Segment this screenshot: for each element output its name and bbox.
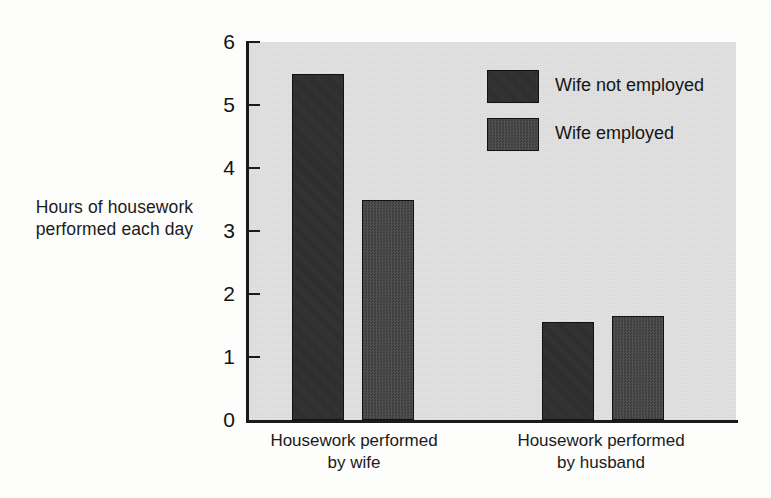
y-axis-tick-label-6: 6 (201, 31, 235, 52)
y-axis-tick-label-5: 5 (201, 94, 235, 115)
legend-swatch-icon-0 (487, 70, 539, 103)
bar-group-0-series-0 (292, 74, 344, 421)
x-axis-line (246, 420, 738, 423)
bar-group-1-series-0 (542, 322, 594, 420)
bar-chart: Hours of housework performed each day 01… (0, 0, 771, 498)
x-axis-category-label-0: Housework performed by wife (239, 430, 469, 474)
y-axis-tick-1 (249, 356, 260, 358)
bar-group-1-series-1 (612, 316, 664, 420)
y-axis-tick-label-4: 4 (201, 157, 235, 178)
y-axis-tick-3 (249, 230, 260, 232)
y-axis-tick-label-2: 2 (201, 283, 235, 304)
legend-item-0[interactable]: Wife not employed (487, 66, 747, 114)
y-axis-tick-5 (249, 104, 260, 106)
y-axis-tick-4 (249, 167, 260, 169)
y-axis-tick-label-0: 0 (201, 409, 235, 430)
y-axis-tick-label-3: 3 (201, 220, 235, 241)
bar-group-0-series-1 (362, 200, 414, 421)
x-axis-category-label-1: Housework performed by husband (486, 430, 716, 474)
y-axis-tick-6 (249, 41, 260, 43)
legend-label-1: Wife employed (555, 118, 674, 148)
y-axis-tick-label-1: 1 (201, 346, 235, 367)
legend-item-1[interactable]: Wife employed (487, 114, 747, 162)
legend: Wife not employed Wife employed (487, 66, 747, 162)
y-axis-title: Hours of housework performed each day (12, 196, 217, 240)
legend-swatch-icon-1 (487, 118, 539, 151)
y-axis-tick-2 (249, 293, 260, 295)
legend-label-0: Wife not employed (555, 70, 704, 100)
